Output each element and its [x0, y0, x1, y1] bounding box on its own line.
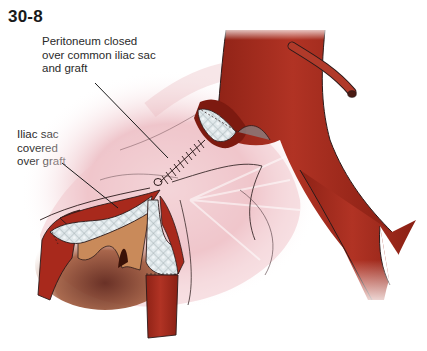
surgical-illustration [0, 0, 427, 351]
